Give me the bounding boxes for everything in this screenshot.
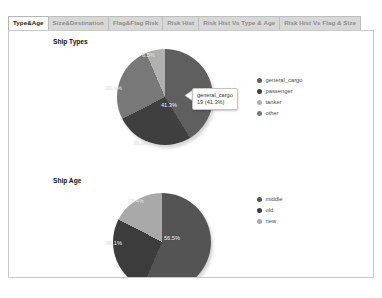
legend-label: passenger <box>266 89 293 95</box>
legend-item-old[interactable]: old <box>257 205 283 216</box>
legend-swatch-icon <box>257 219 262 224</box>
legend-item-tanker[interactable]: tanker <box>257 97 303 108</box>
ship-age-title: Ship Age <box>53 178 81 185</box>
ship-age-chart-block: Ship Age 56.5% 26.1% 17.4% <box>9 155 373 278</box>
ship-age-pie[interactable] <box>113 193 211 278</box>
tab-risk-hist-vs-type-and-age[interactable]: Risk Hist Vs Type & Age <box>198 16 279 31</box>
legend-label: old <box>266 208 274 214</box>
legend-swatch-icon <box>257 89 262 94</box>
legend-item-other[interactable]: other <box>257 108 303 119</box>
legend-label: new <box>266 219 277 225</box>
legend-item-middle[interactable]: middle <box>257 194 283 205</box>
tooltip-value: 19 (41.3%) <box>197 99 233 107</box>
ship-types-title: Ship Types <box>53 39 88 46</box>
tab-size-and-destination[interactable]: Size&Destination <box>48 16 108 31</box>
legend-swatch-icon <box>257 78 262 83</box>
legend-item-new[interactable]: new <box>257 216 283 227</box>
ship-age-slice-label-new: 17.4% <box>128 199 144 205</box>
legend-swatch-icon <box>257 100 262 105</box>
legend-item-passenger[interactable]: passenger <box>257 86 303 97</box>
tab-risk-hist-vs-flag-and-size[interactable]: Risk Hist Vs Flag & Size <box>279 16 361 31</box>
tab-label: Risk Hist <box>167 20 194 26</box>
legend-label: middle <box>266 197 283 203</box>
tab-label: Size&Destination <box>53 20 104 26</box>
tab-type-and-age[interactable]: Type&Age <box>8 16 48 31</box>
application-window: Type&Age Size&Destination Flag&Flag Risk… <box>0 0 382 298</box>
pie-tooltip: general_cargo 19 (41.3%) <box>192 88 238 110</box>
tab-label: Risk Hist Vs Type & Age <box>203 20 275 26</box>
ship-types-slice-label-tanker: 26.1% <box>106 86 122 92</box>
ship-types-slice-label-other: 6.5% <box>142 53 155 59</box>
legend-label: other <box>266 111 279 117</box>
ship-age-slice-label-middle: 56.5% <box>164 236 180 242</box>
legend-swatch-icon <box>257 208 262 213</box>
legend-item-general-cargo[interactable]: general_cargo <box>257 75 303 86</box>
tab-label: Flag&Flag Risk <box>113 20 158 26</box>
ship-age-pie-slices[interactable] <box>113 193 211 278</box>
tab-bar: Type&Age Size&Destination Flag&Flag Risk… <box>8 16 361 31</box>
ship-age-slice-label-old: 26.1% <box>106 241 122 247</box>
tab-risk-hist[interactable]: Risk Hist <box>162 16 198 31</box>
tab-label: Risk Hist Vs Flag & Size <box>284 20 356 26</box>
legend-label: tanker <box>266 100 282 106</box>
ship-types-legend: general_cargo passenger tanker other <box>257 75 303 119</box>
ship-age-legend: middle old new <box>257 194 283 227</box>
ship-types-slice-label-general-cargo: 41.3% <box>161 103 177 109</box>
tab-label: Type&Age <box>13 20 44 26</box>
legend-swatch-icon <box>257 111 262 116</box>
ship-types-slice-label-passenger: 26.1% <box>133 141 149 147</box>
legend-label: general_cargo <box>266 78 303 84</box>
tooltip-category: general_cargo <box>197 92 233 100</box>
legend-swatch-icon <box>257 197 262 202</box>
tab-content-panel: Ship Types 41.3% 26.1% 26.1% 6.5% genera… <box>8 30 374 278</box>
tab-flag-and-flag-risk[interactable]: Flag&Flag Risk <box>108 16 162 31</box>
